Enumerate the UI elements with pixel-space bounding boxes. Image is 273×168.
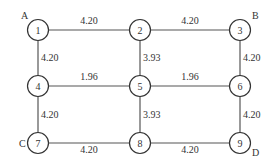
edge-weight-label: 3.93 xyxy=(143,109,161,120)
node-label: 9 xyxy=(238,138,243,149)
node-label: 8 xyxy=(138,138,143,149)
corner-label-c: C xyxy=(19,138,26,149)
node-label: 3 xyxy=(238,25,243,36)
edge-weight-label: 4.20 xyxy=(181,144,199,155)
node-label: 5 xyxy=(138,81,143,92)
edge-weight-label: 4.20 xyxy=(80,15,98,26)
node-3: 3 xyxy=(230,20,251,41)
node-label: 1 xyxy=(36,25,41,36)
node-8: 8 xyxy=(130,133,151,154)
node-1: 1 xyxy=(28,20,49,41)
edge-weight-label: 3.93 xyxy=(143,52,161,63)
node-7: 7 xyxy=(28,133,49,154)
edge-weight-label: 4.20 xyxy=(41,109,59,120)
edge-weight-label: 1.96 xyxy=(80,71,98,82)
node-label: 2 xyxy=(138,25,143,36)
node-label: 7 xyxy=(36,138,41,149)
node-6: 6 xyxy=(230,76,251,97)
edge-weight-label: 4.20 xyxy=(80,144,98,155)
node-5: 5 xyxy=(130,76,151,97)
node-label: 6 xyxy=(238,81,243,92)
node-4: 4 xyxy=(28,76,49,97)
corner-label-a: A xyxy=(21,10,29,21)
edge-weight-label: 4.20 xyxy=(41,52,59,63)
edge-weight-label: 4.20 xyxy=(243,52,261,63)
corner-label-d: D xyxy=(252,147,259,158)
corner-label-b: B xyxy=(252,10,259,21)
network-diagram: 4.204.201.961.964.204.204.204.203.933.93… xyxy=(0,0,273,168)
node-2: 2 xyxy=(130,20,151,41)
edge-weight-label: 4.20 xyxy=(181,15,199,26)
node-label: 4 xyxy=(36,81,41,92)
edge-weight-label: 4.20 xyxy=(243,109,261,120)
edge-weight-label: 1.96 xyxy=(181,71,199,82)
node-9: 9 xyxy=(230,133,251,154)
